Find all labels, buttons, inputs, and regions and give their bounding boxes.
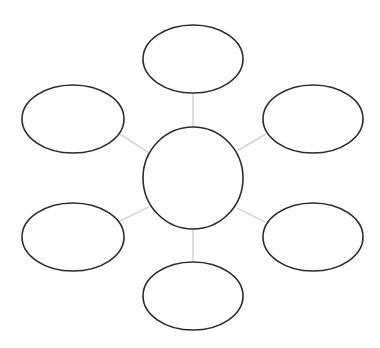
node-top-left-shape[interactable] xyxy=(22,85,124,153)
node-bottom-right[interactable] xyxy=(263,203,363,271)
center-node[interactable] xyxy=(143,127,243,229)
node-bottom[interactable] xyxy=(143,262,243,330)
connector-bottom-left xyxy=(120,207,149,221)
center-node-shape[interactable] xyxy=(143,127,243,229)
connector-top-left xyxy=(120,134,149,153)
nodes-layer xyxy=(22,25,363,330)
diagram-canvas xyxy=(0,0,380,348)
node-bottom-right-shape[interactable] xyxy=(263,203,363,271)
node-top-right[interactable] xyxy=(263,85,363,153)
node-top[interactable] xyxy=(143,25,243,93)
node-top-left[interactable] xyxy=(22,85,124,153)
node-top-shape[interactable] xyxy=(143,25,243,93)
connector-bottom-right xyxy=(237,208,265,222)
node-top-right-shape[interactable] xyxy=(263,85,363,153)
node-bottom-shape[interactable] xyxy=(143,262,243,330)
node-bottom-left[interactable] xyxy=(22,203,124,271)
bubble-map-diagram xyxy=(0,0,380,348)
node-bottom-left-shape[interactable] xyxy=(22,203,124,271)
connector-top-right xyxy=(237,134,266,151)
